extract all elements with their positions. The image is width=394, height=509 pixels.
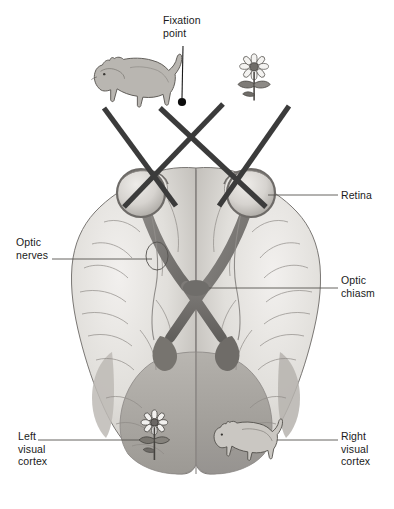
flower-center [250,63,258,71]
fixation-point-dot [178,98,186,106]
cat-cortex-eye [221,433,223,435]
cat-body [94,54,181,107]
flower-cortex-center [151,419,158,426]
cat-top-illustration [91,54,181,107]
label-optic-nerves: Optic nerves [16,236,48,261]
brain-anatomy-illustration [0,0,394,509]
flower-leaf-right [254,81,270,88]
label-retina: Retina [341,189,372,202]
cat-eye [103,73,105,75]
optic-chiasm-body [183,280,209,296]
flower-leaf-left [238,81,254,88]
flower-top-illustration [238,54,270,101]
fixation-point-leader-line [182,46,183,98]
label-optic-chiasm: Optic chiasm [341,274,375,299]
label-left-visual-cortex: Left visual cortex [18,430,47,468]
visual-pathway-figure: Fixation point Retina Optic chiasm Optic… [0,0,394,509]
flower-leaf-lower [243,92,254,97]
label-right-visual-cortex: Right visual cortex [341,430,370,468]
label-fixation-point: Fixation point [163,14,201,39]
